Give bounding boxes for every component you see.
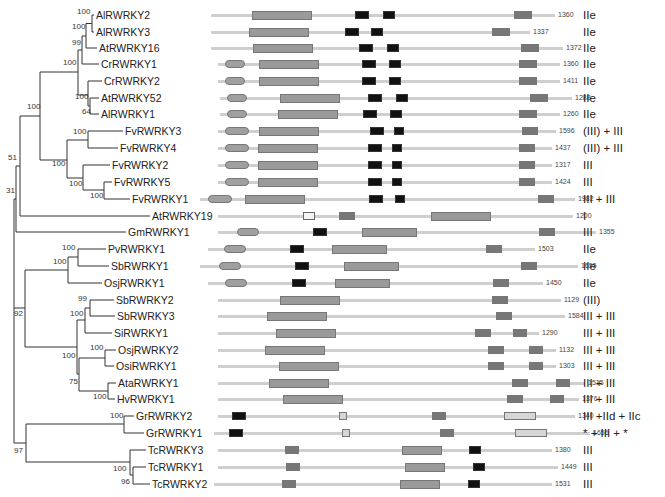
lrr-domain <box>369 195 383 203</box>
bootstrap-value: 100 <box>110 411 123 420</box>
wrky-class: IIe <box>583 75 596 88</box>
tir-domain <box>225 279 247 287</box>
lrr-domain <box>394 127 404 135</box>
protein-length: 1596 <box>559 127 575 135</box>
taxon-label: GrRWRKY2 <box>136 410 192 422</box>
wrky-class: III + III <box>583 193 615 206</box>
taxon-label: FvRWRKY5 <box>114 176 170 188</box>
lrr-domain <box>292 279 306 287</box>
taxon-label: TcRWRKY2 <box>152 478 207 490</box>
phylogenetic-figure: AlRWRKY21360IIeAlRWRKY31337IIeAtRWRKY161… <box>0 0 665 497</box>
wrky-domain <box>339 212 355 220</box>
taxon-label: SiRWRKY1 <box>114 327 168 339</box>
tir-domain <box>225 127 249 135</box>
protein-length: 1503 <box>538 245 554 253</box>
lrr-domain <box>345 28 359 36</box>
box-domain <box>303 212 315 220</box>
wrky-domain <box>521 44 539 52</box>
protein-length: 1360 <box>558 11 574 19</box>
taxon-label: SbRWRKY1 <box>111 260 169 272</box>
lrr-domain <box>368 144 382 152</box>
lrr-domain <box>313 228 327 236</box>
wrky-class: III <box>583 461 593 474</box>
nbarc-domain <box>402 446 442 455</box>
taxon-label: FvRWRKY2 <box>112 159 168 171</box>
nbarc-domain <box>249 28 309 37</box>
protein-track <box>214 483 552 486</box>
nbarc-domain <box>259 60 319 69</box>
bootstrap-value: 96 <box>121 477 130 486</box>
wrky-class: IIe <box>583 58 596 71</box>
bootstrap-value: 100 <box>70 309 83 318</box>
nbarc-domain <box>344 262 399 271</box>
wrky-domain <box>519 77 537 85</box>
taxon-label: AlRWRKY2 <box>96 9 150 21</box>
nbarc-domain <box>431 212 491 221</box>
wrky-domain <box>492 28 510 36</box>
protein-track <box>218 332 539 335</box>
tir-domain <box>219 262 241 270</box>
protein-length: 1380 <box>555 446 571 454</box>
nbarc-domain <box>259 77 319 86</box>
wrky-class: III + III <box>583 344 615 357</box>
wrky-class: (III) <box>583 294 600 307</box>
lrr-domain <box>390 110 402 118</box>
bootstrap-value: 92 <box>14 309 23 318</box>
wrky-domain <box>513 329 527 337</box>
wrky-class: IIe <box>583 42 596 55</box>
lrr-domain <box>229 429 243 437</box>
nbarc-domain <box>245 195 305 204</box>
wrky-class: (III) + III <box>583 142 623 155</box>
wrky-class: III +IId + IIc <box>583 410 641 423</box>
lrr-domain <box>469 446 481 454</box>
lrr-domain <box>396 94 408 102</box>
lrr-domain <box>383 11 395 19</box>
bootstrap-value: 100 <box>72 22 85 31</box>
bootstrap-value: 100 <box>62 243 75 252</box>
wrky-class: III <box>583 444 593 457</box>
wrky-domain <box>432 412 446 420</box>
taxon-label: FvRWRKY1 <box>132 193 188 205</box>
wrky-domain <box>550 395 564 403</box>
protein-track <box>218 449 552 452</box>
tir-domain <box>225 161 249 169</box>
wrky-class: III + III <box>583 310 615 323</box>
wrky-domain <box>522 127 538 135</box>
wrky-class: III + III <box>583 377 615 390</box>
wrky-class: IIe <box>583 277 596 290</box>
lrr-domain <box>371 28 383 36</box>
lrr-domain <box>355 11 369 19</box>
lrr-domain <box>362 77 376 85</box>
protein-length: 1437 <box>555 144 571 152</box>
wrky-domain <box>538 195 554 203</box>
wrky-class: IIe <box>583 26 596 39</box>
bootstrap-value: 99 <box>78 294 87 303</box>
wrky-class: III <box>583 478 593 491</box>
protein-track <box>218 299 561 302</box>
nbarc-domain <box>332 245 387 254</box>
lrr-domain <box>362 60 376 68</box>
taxon-label: PvRWRKY1 <box>108 243 165 255</box>
protein-length: 1411 <box>563 77 578 85</box>
wrky-class: III <box>583 159 593 172</box>
wrky-domain <box>488 346 504 354</box>
taxon-label: CrRWRKY2 <box>104 75 160 87</box>
taxon-label: GrRWRKY1 <box>146 427 202 439</box>
nbarc-domain <box>258 161 318 170</box>
wrky-domain <box>285 446 299 454</box>
lrr-domain <box>387 44 399 52</box>
taxon-label: AlRWRKY3 <box>96 26 150 38</box>
taxon-label: TcRWRKY1 <box>148 461 203 473</box>
wrky-domain <box>492 296 508 304</box>
protein-length: 1449 <box>561 463 577 471</box>
bootstrap-value: 100 <box>90 191 103 200</box>
bootstrap-value: 100 <box>69 179 82 188</box>
wrky-class: III <box>583 176 593 189</box>
wrky-domain <box>493 279 509 287</box>
nbarc-domain <box>252 11 312 20</box>
bootstrap-value: 51 <box>8 153 17 162</box>
nbarc-domain <box>276 329 336 338</box>
taxon-label: AtaRWRKY1 <box>118 377 179 389</box>
wrky-class: III + III <box>583 393 615 406</box>
bootstrap-value: 99 <box>72 38 81 47</box>
